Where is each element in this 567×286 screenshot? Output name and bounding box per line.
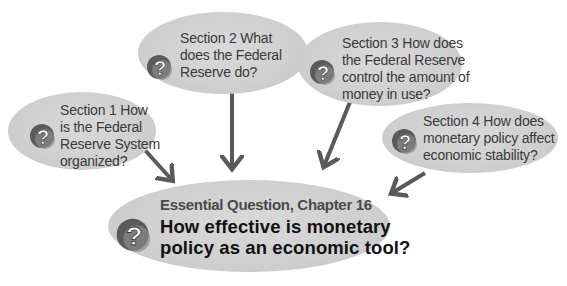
- question-mark-icon: ?: [28, 122, 58, 152]
- question-mark-icon: ?: [308, 58, 338, 88]
- section-3-text: Section 3 How does the Federal Reserve c…: [342, 35, 469, 103]
- section-1-text: Section 1 How is the Federal Reserve Sys…: [60, 102, 160, 170]
- essential-question-title: Essential Question, Chapter 16: [160, 196, 372, 213]
- section-4-text: Section 4 How does monetary policy affec…: [423, 113, 555, 164]
- question-mark-icon: ?: [390, 127, 420, 157]
- svg-text:?: ?: [154, 57, 166, 79]
- arrow-section-4: [392, 173, 425, 193]
- question-mark-icon: ?: [145, 53, 175, 83]
- svg-text:?: ?: [317, 62, 329, 84]
- svg-text:?: ?: [126, 221, 142, 251]
- question-mark-icon: ?: [114, 216, 154, 256]
- essential-question-text: How effective is monetary policy as an e…: [160, 216, 410, 258]
- concept-map: ? Section 1 How is the Federal Reserve S…: [0, 0, 567, 286]
- svg-text:?: ?: [37, 126, 49, 148]
- arrow-section-3: [324, 102, 350, 166]
- section-2-text: Section 2 What does the Federal Reserve …: [180, 30, 282, 81]
- svg-text:?: ?: [399, 131, 411, 153]
